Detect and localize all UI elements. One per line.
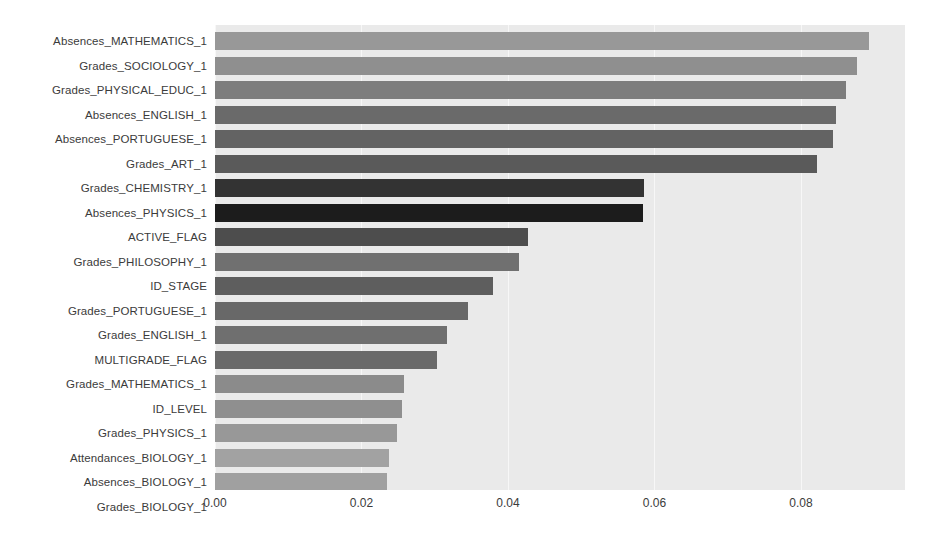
y-axis-label: Absences_ENGLISH_1 xyxy=(0,106,207,124)
bar-row xyxy=(215,179,905,197)
y-axis-label: ID_LEVEL xyxy=(0,400,207,418)
bar-row xyxy=(215,473,905,490)
bar-row xyxy=(215,81,905,99)
bar-row xyxy=(215,277,905,295)
bar-row xyxy=(215,130,905,148)
y-axis-label: Grades_PHYSICS_1 xyxy=(0,424,207,442)
bar xyxy=(215,449,389,467)
y-axis-label: ACTIVE_FLAG xyxy=(0,228,207,246)
bar-row xyxy=(215,375,905,393)
y-axis-label: Grades_ENGLISH_1 xyxy=(0,326,207,344)
bar xyxy=(215,473,387,490)
bar-row xyxy=(215,204,905,222)
bar xyxy=(215,228,528,246)
y-axis-label: Grades_PORTUGUESE_1 xyxy=(0,302,207,320)
y-axis-label: Absences_PORTUGUESE_1 xyxy=(0,130,207,148)
bar-row xyxy=(215,228,905,246)
feature-importance-bar-chart: Absences_MATHEMATICS_1Grades_SOCIOLOGY_1… xyxy=(0,0,935,545)
bar xyxy=(215,424,397,442)
bar-row xyxy=(215,32,905,50)
y-axis-label: ID_STAGE xyxy=(0,277,207,295)
bar-row xyxy=(215,326,905,344)
bar xyxy=(215,155,817,173)
x-axis-tick-label: 0.06 xyxy=(643,496,666,510)
bar xyxy=(215,32,869,50)
bar xyxy=(215,400,402,418)
bar xyxy=(215,57,857,75)
y-axis-label: Grades_CHEMISTRY_1 xyxy=(0,179,207,197)
y-axis-label: Grades_SOCIOLOGY_1 xyxy=(0,57,207,75)
bar xyxy=(215,204,643,222)
bar xyxy=(215,81,846,99)
x-axis-tick-label: 0.02 xyxy=(350,496,373,510)
y-axis-label: Grades_ART_1 xyxy=(0,155,207,173)
bar-row xyxy=(215,253,905,271)
y-axis-label: Attendances_BIOLOGY_1 xyxy=(0,449,207,467)
bar-row xyxy=(215,400,905,418)
y-axis-label: Absences_PHYSICS_1 xyxy=(0,204,207,222)
y-axis-category-labels: Absences_MATHEMATICS_1Grades_SOCIOLOGY_1… xyxy=(0,25,207,490)
bar xyxy=(215,179,644,197)
bar-row xyxy=(215,106,905,124)
y-axis-label: Absences_BIOLOGY_1 xyxy=(0,473,207,491)
bar-row xyxy=(215,155,905,173)
x-axis-tick-labels: 0.000.020.040.060.08 xyxy=(0,496,935,516)
bar-row xyxy=(215,449,905,467)
bar-row xyxy=(215,351,905,369)
bar-row xyxy=(215,424,905,442)
y-axis-label: Absences_MATHEMATICS_1 xyxy=(0,32,207,50)
y-axis-label: Grades_PHYSICAL_EDUC_1 xyxy=(0,81,207,99)
bar xyxy=(215,326,447,344)
x-axis-tick-label: 0.00 xyxy=(203,496,226,510)
bar xyxy=(215,375,404,393)
bar xyxy=(215,106,836,124)
bar xyxy=(215,302,468,320)
bar xyxy=(215,351,437,369)
y-axis-label: Grades_PHILOSOPHY_1 xyxy=(0,253,207,271)
x-axis-tick-label: 0.04 xyxy=(496,496,519,510)
x-axis-tick-label: 0.08 xyxy=(789,496,812,510)
y-axis-label: Grades_MATHEMATICS_1 xyxy=(0,375,207,393)
bar xyxy=(215,253,519,271)
bar xyxy=(215,130,833,148)
bar-row xyxy=(215,57,905,75)
plot-area xyxy=(215,25,905,490)
bar-row xyxy=(215,302,905,320)
bar xyxy=(215,277,493,295)
y-axis-label: MULTIGRADE_FLAG xyxy=(0,351,207,369)
